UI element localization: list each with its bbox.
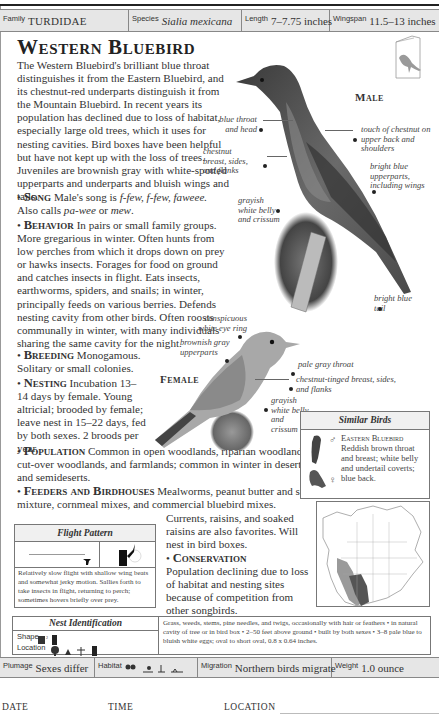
song-call3: mew xyxy=(111,204,131,216)
length-value: 7–7.75 inches xyxy=(271,15,332,27)
svg-text:2: 2 xyxy=(46,635,48,640)
plumage-label: Plumage xyxy=(3,661,33,670)
breeding-section: • Breeding Monogamous. Solitary or small… xyxy=(17,349,147,375)
song-call: f-few, f-few, faweee. xyxy=(120,191,207,203)
nest-id-left: Nest Identification Shape 2 Location xyxy=(13,617,159,654)
flight-pattern-box: Flight Pattern Relatively slow flight wi… xyxy=(14,524,156,608)
leader-dot xyxy=(264,398,268,416)
footer-info-bar: Plumage Sexes differ Habitat Migration N… xyxy=(0,657,439,678)
caption-chestnut-back: touch of chestnut on upper back and shou… xyxy=(361,125,436,154)
leader-dot xyxy=(225,349,229,367)
top-rule xyxy=(0,4,439,6)
species-cell: Species Sialia mexicana xyxy=(129,10,242,31)
female-label: Female xyxy=(160,373,199,385)
behavior-heading: Behavior xyxy=(24,218,74,232)
similar-birds-box: Similar Birds ♂ ♀ Eastern Bluebird Reddi… xyxy=(300,411,430,499)
plumage-cell: Plumage Sexes differ xyxy=(0,658,95,677)
caption-pale-gray-throat: pale gray throat xyxy=(298,360,428,370)
length-label: Length xyxy=(245,14,268,23)
song-pre: Male's song is xyxy=(54,191,120,203)
caption-blue-throat: blue throat and head xyxy=(212,115,257,134)
leader-dot xyxy=(276,199,280,217)
leader-dot xyxy=(378,297,382,315)
migration-label: Migration xyxy=(201,661,232,670)
family-value: TURDIDAE xyxy=(28,15,87,27)
feeders-text-2: Currents, raisins, and soaked raisins ar… xyxy=(166,512,316,551)
similar-birds-title: Similar Birds xyxy=(301,412,429,430)
habitat-label: Habitat xyxy=(98,661,122,670)
nest-description: Grass, weeds, stems, pine needles, and t… xyxy=(163,619,425,646)
caption-bright-upperparts: bright blue upperparts, including wings xyxy=(370,162,436,191)
eastern-bluebird-icon xyxy=(306,434,326,494)
habitat-icons xyxy=(125,663,185,673)
log-location-label: LOCATION xyxy=(224,702,276,712)
leader-line xyxy=(255,379,289,380)
nest-id-title: Nest Identification xyxy=(13,617,158,631)
log-date-label: DATE xyxy=(2,702,28,712)
feeders-section: • Feeders and Birdhouses Mealworms, pean… xyxy=(17,485,317,511)
intro-text: The Western Bluebird's brilliant blue th… xyxy=(17,59,229,203)
intro-paragraph: The Western Bluebird's brilliant blue th… xyxy=(17,59,229,203)
leader-dot xyxy=(372,180,376,198)
leader-line xyxy=(263,120,293,121)
log-time-label: TIME xyxy=(108,702,133,712)
caption-chestnut-breast: chestnut breast, sides, and flanks xyxy=(203,147,255,176)
flight-path-line xyxy=(29,554,85,555)
similar-bird-name: Eastern Bluebird xyxy=(341,433,403,443)
leader-line xyxy=(267,156,287,157)
male-symbol: ♂ xyxy=(329,434,337,445)
leader-dot xyxy=(289,377,293,395)
header-info-bar: Family TURDIDAE Species Sialia mexicana … xyxy=(0,9,439,32)
plumage-value: Sexes differ xyxy=(36,662,89,674)
left-rule xyxy=(0,6,1,666)
song-or: or xyxy=(96,204,111,216)
migration-cell: Migration Northern birds migrate xyxy=(198,658,332,677)
male-label: Male xyxy=(355,91,384,103)
leader-dot xyxy=(353,128,357,146)
leader-dot xyxy=(238,325,242,343)
location-label: Location xyxy=(17,643,45,652)
wingspan-label: Wingspan xyxy=(333,14,366,23)
nest-identification-box: Nest Identification Shape 2 Location Gra… xyxy=(12,616,431,655)
hovering-bird-icon xyxy=(119,544,143,570)
song-call2: pa-wee xyxy=(64,204,96,216)
similar-bird-text: Reddish brown throat and breast; white b… xyxy=(341,443,418,483)
conservation-text: Population declining due to loss of habi… xyxy=(166,565,316,617)
migration-value: Northern birds migrate xyxy=(235,662,336,674)
weight-label: Weight xyxy=(335,661,358,670)
conservation-section: • Conservation Population declining due … xyxy=(166,552,316,617)
song-end: . xyxy=(131,204,134,216)
song-section: • Song Male's song is f-few, f-few, fawe… xyxy=(17,191,229,217)
flight-pattern-title: Flight Pattern xyxy=(15,525,155,542)
log-location-line[interactable] xyxy=(280,713,439,714)
population-section: • Population Common in open woodlands, r… xyxy=(17,445,317,484)
range-map xyxy=(316,501,430,607)
page-title: Western Bluebird xyxy=(17,35,195,60)
feeders-heading: Feeders and Birdhouses xyxy=(24,484,155,498)
nesting-heading: Nesting xyxy=(24,376,67,390)
weight-cell: Weight 1.0 ounce xyxy=(332,658,439,677)
male-bird-illustration xyxy=(236,62,436,322)
wingspan-value: 11.5–13 inches xyxy=(369,15,435,27)
species-label: Species xyxy=(132,14,159,23)
family-label: Family xyxy=(3,14,25,23)
length-cell: Length 7–7.75 inches xyxy=(242,10,330,31)
feeders-continued: Currents, raisins, and soaked raisins ar… xyxy=(166,512,316,551)
species-value: Sialia mexicana xyxy=(162,15,233,27)
shape-label: Shape xyxy=(17,632,39,641)
weight-value: 1.0 ounce xyxy=(361,662,404,674)
wingspan-cell: Wingspan 11.5–13 inches xyxy=(330,10,439,31)
habitat-cell: Habitat xyxy=(95,658,198,677)
song-heading: Song xyxy=(24,190,51,204)
conservation-heading: Conservation xyxy=(173,551,247,565)
bird-flight-icon xyxy=(83,551,91,569)
leader-line xyxy=(325,130,353,131)
flight-diagram-row xyxy=(15,542,155,568)
similar-birds-desc: Eastern Bluebird Reddish brown throat an… xyxy=(341,433,427,483)
population-heading: Population xyxy=(24,444,85,458)
flight-pattern-text: Relatively slow flight with shallow wing… xyxy=(18,569,152,605)
breeding-heading: Breeding xyxy=(24,348,74,362)
caption-chestnut-tinged: chestnut-tinged breast, sides, and flank… xyxy=(296,375,406,394)
family-cell: Family TURDIDAE xyxy=(0,10,129,31)
female-symbol: ♀ xyxy=(329,474,337,485)
